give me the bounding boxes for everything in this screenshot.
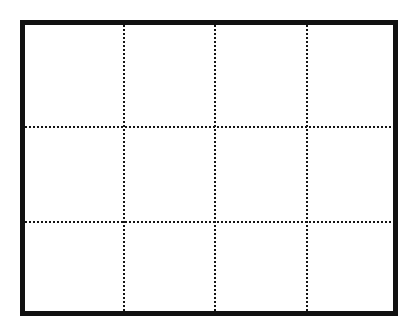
table-cell-r2c1[interactable] [25,127,124,222]
table-cell-r3c3[interactable] [215,222,307,311]
table-cell-r3c4[interactable] [307,222,393,311]
table-cell-r3c1[interactable] [25,222,124,311]
table-interior [25,25,393,311]
table-cell-r1c1[interactable] [25,25,124,127]
table-cell-r2c2[interactable] [124,127,215,222]
table-cell-r3c2[interactable] [124,222,215,311]
table-outer-border [20,20,398,316]
table-cell-r2c4[interactable] [307,127,393,222]
table-cell-r2c3[interactable] [215,127,307,222]
table-cell-r1c4[interactable] [307,25,393,127]
table-cell-r1c3[interactable] [215,25,307,127]
figure-canvas [0,0,418,332]
table-cell-r1c2[interactable] [124,25,215,127]
